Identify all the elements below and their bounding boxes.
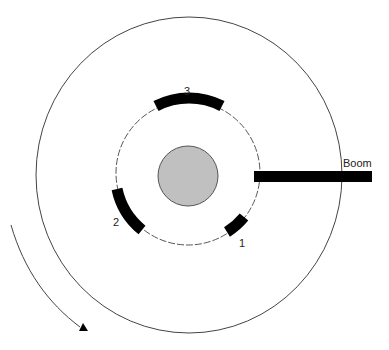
- segment-2: [117, 189, 142, 230]
- rotating-platform-diagram: 3 2 1 Boom: [0, 0, 389, 350]
- label-segment-1: 1: [239, 237, 245, 249]
- segment-1: [227, 217, 244, 232]
- label-segment-2: 2: [113, 216, 119, 228]
- segment-3: [156, 98, 222, 106]
- arrowhead-icon: [79, 323, 88, 331]
- central-hub: [158, 146, 218, 206]
- label-segment-3: 3: [184, 85, 190, 97]
- boom-bar: [254, 171, 372, 182]
- rotation-arrow: [11, 225, 80, 327]
- label-boom: Boom: [343, 157, 372, 169]
